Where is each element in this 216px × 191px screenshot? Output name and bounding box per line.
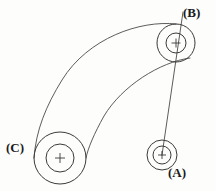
pulley-label-c: (C) [6, 141, 24, 154]
pulley-label-b: (B) [183, 6, 200, 19]
belt-outer-edge [34, 23, 176, 158]
pulley-C [34, 132, 86, 184]
pulley-B [157, 24, 195, 62]
diagram-canvas [0, 0, 216, 191]
pulley-belt-diagram: (A) (B) (C) [0, 0, 216, 191]
pulley-label-a: (A) [168, 166, 186, 179]
